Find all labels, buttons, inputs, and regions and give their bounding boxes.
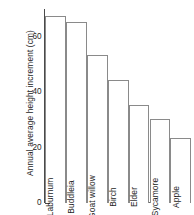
bar-apple: Apple [170,138,191,203]
bar-label-buddleia: Buddleia [67,180,76,213]
bar-sycamore: Sycamore [150,119,171,203]
plot-area: LaburnumBuddleiaGoat willowBirchElderSyc… [45,9,193,203]
bar-goat-willow: Goat willow [87,55,108,203]
bar-label-goat-willow: Goat willow [88,175,97,215]
bar-label-sycamore: Sycamore [151,178,160,215]
y-tick-label-60: 60 [12,33,45,41]
y-tick-label-40: 40 [12,88,45,96]
bar-label-apple: Apple [172,186,181,208]
bar-birch: Birch [108,80,129,203]
bar-label-laburnum: Laburnum [46,178,55,215]
bar-chart-figure: Annual average height increment (cm) 604… [0,0,194,215]
y-tick-label-0: 0 [12,199,45,207]
bar-label-elder: Elder [130,187,139,207]
bar-laburnum: Laburnum [45,16,66,203]
bar-elder: Elder [129,105,150,203]
bar-buddleia: Buddleia [66,22,87,203]
y-tick-label-20: 20 [12,144,45,152]
bar-label-birch: Birch [109,187,118,207]
